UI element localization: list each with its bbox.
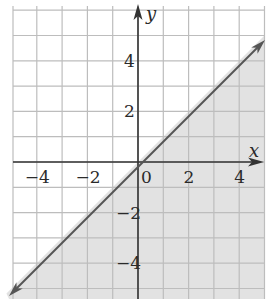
inequality-graph: −4−2024−4−224 x y (0, 0, 269, 305)
x-tick-label: −4 (25, 167, 50, 187)
x-tick-label: 0 (141, 167, 152, 187)
y-tick-label: 4 (124, 51, 135, 71)
x-axis-label: x (249, 140, 259, 161)
coordinate-plane: −4−2024−4−224 x y (0, 0, 269, 305)
y-tick-label: −4 (116, 253, 141, 273)
y-tick-label: 2 (124, 101, 135, 121)
y-axis-label: y (145, 3, 157, 24)
y-tick-label: −2 (116, 203, 141, 223)
x-tick-label: −2 (75, 167, 100, 187)
x-tick-label: 2 (184, 167, 195, 187)
x-tick-label: 4 (234, 167, 245, 187)
